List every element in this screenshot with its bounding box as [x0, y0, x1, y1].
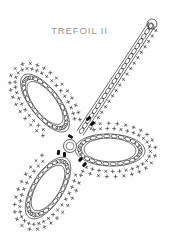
chain-link: [28, 101, 34, 108]
stitch-mark: [34, 68, 39, 73]
join-marker-b: [63, 152, 66, 157]
stitch-mark: [19, 223, 25, 229]
stitch-mark: [144, 139, 150, 145]
stitch-mark: [55, 216, 59, 220]
stitch-mark: [28, 164, 34, 170]
stitch-mark: [71, 111, 76, 116]
right-petal: [75, 121, 158, 179]
stitch-mark: [70, 195, 75, 200]
stitch-mark: [12, 66, 18, 72]
chain-link: [52, 92, 58, 99]
stitch-mark: [42, 224, 47, 229]
stitch-mark: [16, 187, 21, 192]
chain-link: [27, 206, 31, 213]
stitch-mark: [44, 74, 50, 80]
stitch-mark: [136, 133, 141, 138]
stitch-mark: [69, 95, 74, 100]
stitch-mark: [107, 121, 111, 125]
stitch-mark: [32, 222, 36, 226]
stitch-mark: [135, 164, 140, 169]
stitch-mark: [74, 188, 79, 193]
halo-stitches: [8, 61, 82, 138]
stitch-mark: [59, 81, 65, 87]
stitch-mark: [137, 169, 142, 174]
stitch-mark: [36, 163, 42, 169]
stitch-mark: [17, 109, 23, 115]
stitch-mark: [140, 162, 145, 167]
petal-outer-outline: [25, 157, 70, 219]
stitch-mark: [39, 71, 44, 76]
stitch-mark: [90, 167, 95, 172]
stitch-mark: [69, 184, 74, 189]
stitch-mark: [59, 202, 65, 208]
stitch-mark: [125, 128, 130, 133]
page-title: TREFOIL II: [0, 25, 169, 36]
stitch-mark: [35, 226, 41, 232]
chain-link: [131, 48, 138, 55]
chain-link: [105, 87, 112, 94]
stitch-mark: [73, 103, 78, 108]
chain-link: [110, 162, 116, 166]
stitch-mark: [51, 213, 55, 217]
stitch-mark: [24, 66, 30, 72]
stitch-mark: [17, 204, 23, 210]
stitch-mark: [65, 203, 71, 209]
stitch-mark: [97, 168, 102, 173]
stitch-mark: [60, 209, 66, 215]
stitch-mark: [22, 219, 26, 223]
stitch-mark: [130, 172, 135, 177]
stitch-mark: [69, 105, 74, 110]
stitch-mark: [34, 128, 40, 134]
stem-marker-b: [90, 121, 96, 127]
stitch-mark: [21, 186, 26, 191]
stitch-mark: [123, 122, 129, 128]
lower-left-petal: [13, 153, 84, 232]
chain-link: [63, 119, 69, 126]
stitch-mark: [27, 61, 33, 67]
petal-inner-outline: [27, 82, 63, 125]
stitch-mark: [59, 88, 63, 92]
chain-link: [21, 80, 27, 87]
stitch-mark: [32, 169, 37, 174]
stitch-mark: [54, 83, 58, 87]
stitch-mark: [10, 95, 15, 100]
stitch-mark: [46, 216, 52, 222]
chain-link: [30, 184, 36, 191]
stitch-mark: [153, 145, 158, 150]
chain-link: [134, 43, 141, 50]
stitch-mark: [55, 207, 61, 213]
stitch-mark: [88, 171, 93, 176]
chain-link: [82, 122, 89, 129]
stitch-mark: [111, 170, 115, 174]
chain-link: [111, 77, 118, 84]
stitch-mark: [20, 62, 25, 67]
stitch-mark: [153, 153, 158, 158]
stitch-mark: [105, 126, 109, 130]
chain-link: [65, 163, 69, 170]
chain-link: [121, 62, 128, 69]
stitch-mark: [72, 116, 77, 121]
halo-stitches: [80, 121, 158, 179]
stitch-mark: [19, 214, 24, 219]
stitch-mark: [24, 180, 29, 185]
join-marker-a: [57, 150, 61, 156]
hub-ring: [64, 140, 77, 153]
stitch-mark: [35, 63, 40, 68]
chain-link: [32, 107, 38, 114]
stitch-mark: [31, 118, 37, 124]
stitch-mark: [141, 136, 147, 142]
stitch-mark: [112, 127, 116, 131]
chain-link: [41, 118, 48, 125]
stitch-mark: [123, 167, 129, 173]
stitch-mark: [121, 173, 127, 179]
stem-rail-b: [83, 26, 155, 135]
stitch-mark: [13, 102, 18, 107]
chain-link: [95, 102, 102, 109]
stitch-mark: [144, 166, 149, 171]
stitch-mark: [131, 125, 136, 130]
stitch-mark: [20, 67, 25, 72]
chain-link: [124, 57, 131, 64]
stitch-mark: [8, 81, 12, 85]
chain-link: [114, 72, 121, 79]
chain-link: [42, 82, 49, 89]
